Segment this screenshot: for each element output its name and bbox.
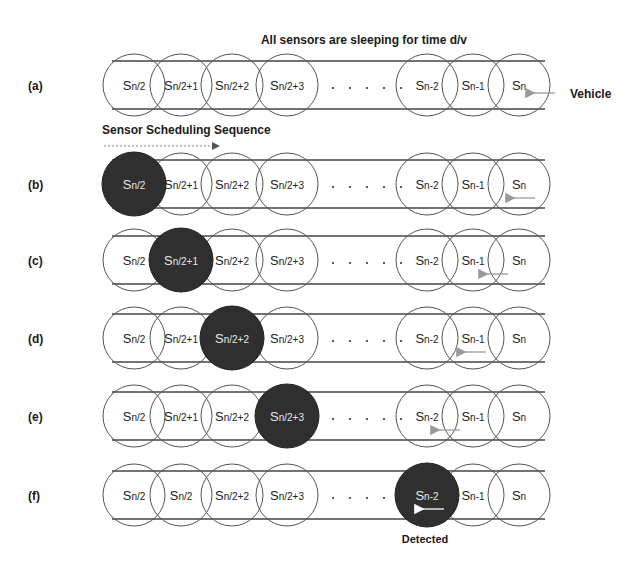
- sensor-label: Sn/2: [170, 488, 193, 503]
- ellipsis-dot: [383, 262, 385, 264]
- sensor-label: Sn/2+2: [215, 488, 249, 503]
- sensor-label: Sn-1: [461, 177, 485, 192]
- active-sensor-label: Sn/2+2: [215, 331, 249, 346]
- sensor-label: Sn-2: [415, 253, 439, 268]
- sensor-label: Sn-1: [461, 253, 485, 268]
- sensor-label: Sn/2+3: [270, 177, 304, 192]
- row-label: (d): [28, 332, 43, 346]
- ellipsis-dot: [383, 340, 385, 342]
- sensor-label: Sn-2: [415, 409, 439, 424]
- sensor-label: Sn/2+2: [215, 177, 249, 192]
- ellipsis-dot: [332, 340, 334, 342]
- ellipsis-dot: [366, 497, 368, 499]
- active-sensor-label: Sn-2: [415, 488, 439, 503]
- diagram-row: (f)Sn/2Sn/2Sn/2+2Sn/2+3Sn-2Sn-1Sn: [28, 463, 550, 527]
- sensor-label: Sn/2+3: [270, 253, 304, 268]
- ellipsis-dot: [400, 262, 402, 264]
- row-label: (f): [28, 489, 40, 503]
- diagram-row: (a)Sn/2Sn/2+1Sn/2+2Sn/2+3Sn-2Sn-1Sn: [28, 54, 555, 116]
- ellipsis-dot: [400, 497, 402, 499]
- sensor-label: Sn/2+3: [270, 78, 304, 93]
- diagram-row: (e)Sn/2Sn/2+1Sn/2+2Sn/2+3Sn-2Sn-1Sn: [28, 384, 550, 448]
- sensor-label: Sn-2: [415, 331, 439, 346]
- ellipsis-dot: [366, 186, 368, 188]
- sensor-label: Sn-1: [461, 409, 485, 424]
- ellipsis-dot: [366, 418, 368, 420]
- ellipsis-dot: [383, 186, 385, 188]
- sensor-label: Sn: [512, 488, 526, 503]
- ellipsis-dot: [349, 418, 351, 420]
- sensor-label: Sn: [512, 253, 526, 268]
- ellipsis-dot: [366, 340, 368, 342]
- sensor-scheduling-diagram: All sensors are sleeping for time d/v Se…: [0, 0, 644, 571]
- ellipsis-dot: [349, 87, 351, 89]
- ellipsis-dot: [332, 262, 334, 264]
- sensor-label: Sn/2: [123, 409, 146, 424]
- ellipsis-dot: [366, 262, 368, 264]
- sensor-label: Sn: [512, 409, 526, 424]
- sensor-label: Sn: [512, 331, 526, 346]
- ellipsis-dot: [383, 418, 385, 420]
- sensor-label: Sn-2: [415, 177, 439, 192]
- ellipsis-dot: [366, 87, 368, 89]
- sensor-label: Sn-2: [415, 78, 439, 93]
- ellipsis-dot: [332, 186, 334, 188]
- diagram-row: (d)Sn/2Sn/2+1Sn/2+2Sn/2+3Sn-2Sn-1Sn: [28, 306, 550, 370]
- sensor-label: Sn/2: [123, 78, 146, 93]
- sensor-label: Sn/2+1: [164, 409, 198, 424]
- ellipsis-dot: [349, 497, 351, 499]
- diagram-canvas: All sensors are sleeping for time d/v Se…: [0, 0, 644, 571]
- row-label: (b): [28, 178, 43, 192]
- diagram-row: (c)Sn/2Sn/2+1Sn/2+2Sn/2+3Sn-2Sn-1Sn: [28, 228, 550, 292]
- sensor-label: Sn-1: [461, 488, 485, 503]
- ellipsis-dot: [349, 340, 351, 342]
- sequence-label: Sensor Scheduling Sequence: [102, 123, 271, 137]
- active-sensor-label: Sn/2+3: [270, 409, 304, 424]
- ellipsis-dot: [383, 87, 385, 89]
- ellipsis-dot: [349, 262, 351, 264]
- sensor-label: Sn-1: [461, 331, 485, 346]
- sensor-label: Sn: [512, 177, 526, 192]
- ellipsis-dot: [349, 186, 351, 188]
- ellipsis-dot: [400, 186, 402, 188]
- sensor-label: Sn/2: [123, 253, 146, 268]
- sensor-label: Sn/2: [123, 488, 146, 503]
- ellipsis-dot: [332, 87, 334, 89]
- ellipsis-dot: [383, 497, 385, 499]
- active-sensor-label: Sn/2: [123, 177, 146, 192]
- sensor-label: Sn/2+1: [164, 177, 198, 192]
- row-label: (e): [28, 410, 43, 424]
- diagram-title: All sensors are sleeping for time d/v: [261, 33, 467, 47]
- sensor-label: Sn/2+3: [270, 331, 304, 346]
- diagram-row: (b)Sn/2Sn/2+1Sn/2+2Sn/2+3Sn-2Sn-1Sn: [28, 152, 550, 216]
- sensor-label: Sn/2+1: [164, 331, 198, 346]
- sensor-label: Sn/2+2: [215, 409, 249, 424]
- sensor-label: Sn/2+2: [215, 78, 249, 93]
- active-sensor-label: Sn/2+1: [164, 253, 198, 268]
- sensor-label: Sn/2+3: [270, 488, 304, 503]
- sensor-label: Sn/2+1: [164, 78, 198, 93]
- ellipsis-dot: [400, 340, 402, 342]
- ellipsis-dot: [332, 418, 334, 420]
- vehicle-label: Vehicle: [570, 87, 612, 101]
- ellipsis-dot: [400, 418, 402, 420]
- sensor-label: Sn/2+2: [215, 253, 249, 268]
- ellipsis-dot: [400, 87, 402, 89]
- sensor-label: Sn-1: [461, 78, 485, 93]
- row-label: (c): [28, 254, 43, 268]
- sensor-label: Sn/2: [123, 331, 146, 346]
- sensor-label: Sn: [512, 78, 526, 93]
- detected-label: Detected: [402, 533, 448, 545]
- row-label: (a): [28, 79, 43, 93]
- ellipsis-dot: [332, 497, 334, 499]
